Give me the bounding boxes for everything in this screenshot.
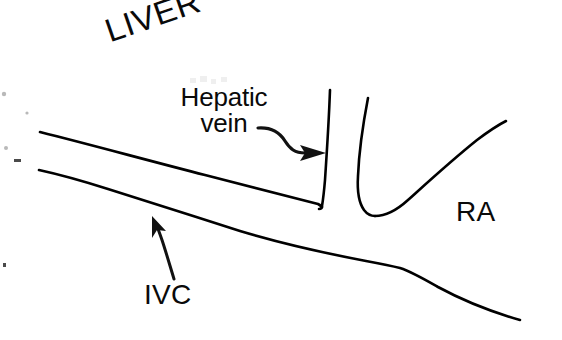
scan-speck-icon (3, 263, 6, 267)
ivc-upper-wall-path (40, 132, 322, 207)
label-ivc: IVC (144, 281, 192, 310)
scan-speck-icon (4, 146, 8, 150)
anatomy-line-art (0, 0, 562, 340)
label-ra: RA (456, 198, 496, 227)
scan-speck-icon (25, 111, 28, 114)
hepatic-vein-left-wall-path (319, 90, 330, 209)
ivc-lower-wall-path (39, 170, 520, 320)
diagram-canvas: LIVER Hepaticvein IVC RA (0, 0, 562, 340)
hepatic-vein-right-wall-path (358, 98, 375, 216)
ivc-pointer-curve (157, 226, 174, 279)
label-hepatic-vein-line2: vein (159, 110, 289, 137)
scan-speck-icon (14, 159, 21, 162)
scan-speck-icon (2, 92, 6, 96)
label-hepatic-vein: Hepaticvein (159, 84, 289, 136)
